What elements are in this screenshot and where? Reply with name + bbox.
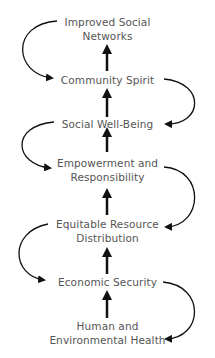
node-improved-social-networks: Improved Social Networks [0, 15, 215, 43]
up-arrow-n5-n4 [102, 188, 112, 215]
node-label-line2: Environmental Health [0, 333, 215, 347]
up-arrow-n7-n6 [102, 290, 112, 318]
node-label-line1: Empowerment and [0, 156, 215, 170]
up-arrow-n6-n5 [102, 247, 112, 274]
up-arrow-n2-n1 [102, 44, 112, 71]
node-equitable-resource-distribution: Equitable Resource Distribution [0, 217, 215, 245]
node-label-line1: Social Well-Being [0, 117, 215, 131]
node-empowerment-responsibility: Empowerment and Responsibility [0, 156, 215, 184]
node-label-line1: Improved Social [0, 15, 215, 29]
node-social-well-being: Social Well-Being [0, 117, 215, 131]
node-community-spirit: Community Spirit [0, 73, 215, 87]
node-label-line1: Community Spirit [0, 73, 215, 87]
node-label-line2: Distribution [0, 231, 215, 245]
node-label-line1: Human and [0, 319, 215, 333]
node-human-environmental-health: Human and Environmental Health [0, 319, 215, 347]
node-label-line1: Economic Security [0, 275, 215, 289]
node-label-line2: Networks [0, 29, 215, 43]
node-label-line2: Responsibility [0, 170, 215, 184]
node-economic-security: Economic Security [0, 275, 215, 289]
node-label-line1: Equitable Resource [0, 217, 215, 231]
up-arrow-n3-n2 [102, 88, 112, 117]
